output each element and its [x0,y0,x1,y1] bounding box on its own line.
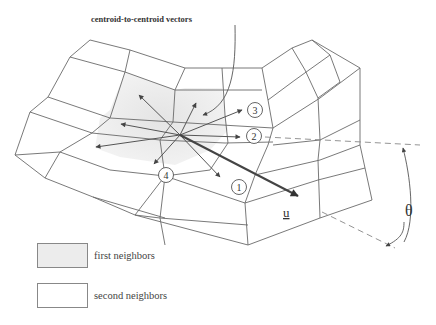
legend-label-second: second neighbors [94,290,167,301]
legend-swatch-first [37,243,88,268]
svg-text:4: 4 [164,170,169,181]
legend-swatch-second [37,283,88,308]
mesh-diagram: 1 2 3 4 centroid-to-centroid vectors u θ [0,0,436,325]
vector-u-label: u [283,205,290,220]
neighbor-label-3: 3 [248,103,263,118]
neighbor-label-4: 4 [159,168,174,183]
svg-text:1: 1 [237,182,242,193]
legend-second-neighbors: second neighbors [37,283,167,308]
reference-line-direction [322,212,395,248]
angle-arc [403,148,411,242]
theta-label: θ [405,202,413,219]
legend-label-first: first neighbors [94,250,155,261]
annotation-label: centroid-to-centroid vectors [91,14,193,24]
legend-first-neighbors: first neighbors [37,243,155,268]
neighbor-label-1: 1 [232,180,247,195]
svg-text:2: 2 [252,131,257,142]
svg-text:3: 3 [253,105,258,116]
neighbor-label-2: 2 [247,129,262,144]
